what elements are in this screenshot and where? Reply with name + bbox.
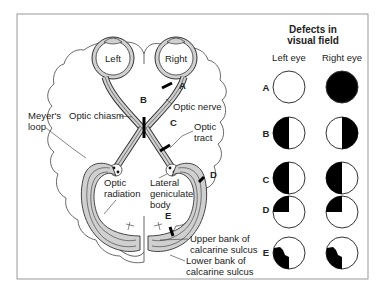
field-b-left xyxy=(273,117,305,149)
upper-bank-label-1: Upper bank of xyxy=(190,233,250,244)
lgb-label-1: Lateral xyxy=(150,177,179,188)
left-eye-label: Left xyxy=(105,53,121,64)
upper-bank-label-2: calcarine sulcus xyxy=(190,244,258,255)
optic-nerve-label: Optic nerve xyxy=(173,101,222,112)
column-left-eye: Left eye xyxy=(272,52,306,63)
optic-tract-label-2: tract xyxy=(194,132,213,143)
field-c-left xyxy=(273,162,305,194)
meyers-loop-label-1: Meyer's xyxy=(28,110,61,121)
marker-d: D xyxy=(210,169,217,180)
field-a-left xyxy=(273,71,305,103)
lgb-label-3: body xyxy=(150,199,171,210)
lower-bank-label-1: Lower bank of xyxy=(186,255,246,266)
marker-c: C xyxy=(170,117,177,128)
optic-tract-label-1: Optic xyxy=(194,121,216,132)
meyers-loop-label-2: loop xyxy=(28,121,46,132)
right-eye-label: Right xyxy=(165,53,188,64)
row-label-d: D xyxy=(263,204,270,215)
row-label-e: E xyxy=(263,247,269,258)
field-d-right xyxy=(326,196,358,228)
field-e-left xyxy=(273,237,305,269)
defects-title-1: Defects in xyxy=(289,24,337,35)
column-right-eye: Right eye xyxy=(322,52,362,63)
optic-radiation-label-2: radiation xyxy=(104,188,140,199)
row-label-a: A xyxy=(263,82,270,93)
field-a-right xyxy=(326,71,358,103)
lgb-label-2: geniculate xyxy=(150,188,193,199)
row-label-c: C xyxy=(263,174,270,185)
field-d-left xyxy=(273,196,305,228)
marker-a: A xyxy=(179,80,186,91)
optic-radiation-label-1: Optic xyxy=(104,177,126,188)
optic-chiasm-label: Optic chiasm xyxy=(69,110,124,121)
field-b-right xyxy=(326,117,358,149)
visual-pathway-diagram: A B C D E Left Right Meyer's loop Optic … xyxy=(0,0,385,293)
marker-e: E xyxy=(165,210,171,221)
marker-b: B xyxy=(140,94,147,105)
lower-bank-label-2: calcarine sulcus xyxy=(186,266,254,277)
row-label-b: B xyxy=(263,128,270,139)
field-e-right xyxy=(326,237,358,269)
field-c-right xyxy=(326,162,358,194)
defects-title-2: visual field xyxy=(287,35,339,46)
